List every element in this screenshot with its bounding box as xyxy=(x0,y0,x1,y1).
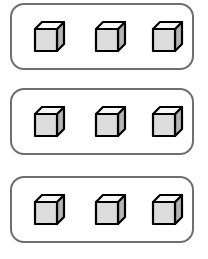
cube-front-face xyxy=(96,29,118,51)
cube-group xyxy=(10,176,194,243)
cube-front-face xyxy=(96,202,118,224)
cube-icon xyxy=(95,106,126,137)
cube-front-face xyxy=(96,114,118,136)
cube-groups-canvas xyxy=(0,0,208,259)
cube-icon xyxy=(34,106,65,137)
cube-icon xyxy=(95,21,126,52)
cube-icon xyxy=(34,194,65,225)
cube-front-face xyxy=(35,29,57,51)
cube-front-face xyxy=(35,114,57,136)
cube-front-face xyxy=(35,202,57,224)
cube-icon xyxy=(152,21,183,52)
cube-group xyxy=(10,3,194,70)
cube-icon xyxy=(95,194,126,225)
cube-front-face xyxy=(153,29,175,51)
cube-front-face xyxy=(153,114,175,136)
cube-icon xyxy=(34,21,65,52)
cube-group xyxy=(10,88,194,155)
cube-icon xyxy=(152,194,183,225)
cube-icon xyxy=(152,106,183,137)
cube-front-face xyxy=(153,202,175,224)
